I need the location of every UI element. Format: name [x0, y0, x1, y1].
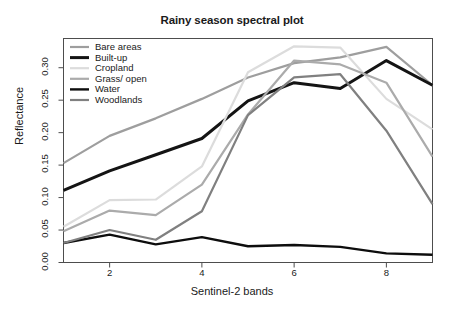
x-tick-label: 6: [284, 267, 304, 278]
x-tick-label: 2: [100, 267, 120, 278]
legend-entry-label: Woodlands: [95, 94, 142, 105]
legend-entry-label: Bare areas: [95, 41, 141, 52]
series-line: [64, 235, 433, 255]
y-tick-label: 0.00: [38, 246, 49, 276]
plot-canvas: [0, 0, 464, 311]
y-tick-label: 0.05: [38, 214, 49, 244]
legend-entry-label: Water: [95, 83, 120, 94]
y-tick-label: 0.10: [38, 181, 49, 211]
legend-entry-label: Cropland: [95, 62, 134, 73]
y-tick-label: 0.20: [38, 116, 49, 146]
legend-swatches: [70, 47, 89, 100]
y-tick-label: 0.15: [38, 149, 49, 179]
chart-figure: Rainy season spectral plot Reflectance S…: [0, 0, 464, 311]
x-tick-label: 8: [376, 267, 396, 278]
y-tick-label: 0.25: [38, 84, 49, 114]
y-tick-label: 0.30: [38, 51, 49, 81]
x-tick-label: 4: [192, 267, 212, 278]
legend-entry-label: Built-up: [95, 52, 127, 63]
legend-entry-label: Grass/ open: [95, 73, 147, 84]
